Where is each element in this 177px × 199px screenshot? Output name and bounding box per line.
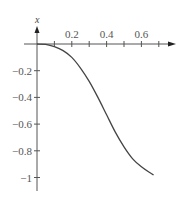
y-tick-label: −0.2 (12, 65, 32, 77)
series (37, 44, 154, 175)
y-axis-arrow-icon (35, 26, 40, 33)
y-tick-label: −0.4 (12, 91, 32, 103)
x-tick-label: 0.2 (65, 28, 79, 40)
y-tick-label: −0.6 (12, 118, 32, 130)
x-tick-label: 0.6 (135, 28, 149, 40)
y-tick-label: −1 (20, 172, 32, 184)
y-axis-label: x (34, 14, 40, 25)
y-tick-label: −0.8 (12, 145, 32, 157)
x-axis-arrow-icon (168, 42, 176, 47)
x-tick-label: 0.4 (100, 28, 114, 40)
y-axis: −0.2−0.4−0.6−0.8−1 (12, 26, 40, 191)
series-line (37, 44, 154, 175)
line-chart: 0.20.40.6 −0.2−0.4−0.6−0.8−1 x (0, 0, 177, 199)
